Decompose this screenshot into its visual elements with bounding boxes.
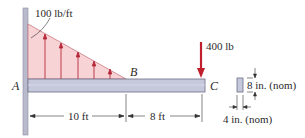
dimension-lines (30, 94, 202, 122)
point-label-c: C (210, 79, 219, 93)
point-load-label: 400 lb (206, 40, 234, 52)
dimension-bc-label: 8 ft (150, 110, 165, 122)
point-load-arrow (197, 42, 205, 78)
fixed-support-wall (23, 8, 28, 135)
support-label-a: A (11, 79, 20, 93)
beam-diagram: 100 lb/ft A B C 400 lb 10 ft 8 ft (0, 0, 305, 138)
distributed-load-label: 100 lb/ft (35, 7, 73, 19)
dimension-ab-label: 10 ft (68, 110, 88, 122)
point-label-b: B (130, 65, 138, 79)
cross-section-width-label: 4 in. (nom) (223, 113, 273, 126)
distributed-load-area (28, 24, 126, 79)
cross-section-height-label: 8 in. (nom) (247, 79, 297, 92)
cross-section (237, 78, 243, 92)
